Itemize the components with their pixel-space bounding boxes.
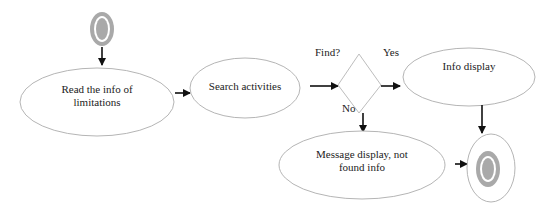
node-message-label-1: Message display, not [316, 148, 408, 160]
node-message-not-found: Message display, not found info [279, 131, 445, 199]
node-info-display: Info display [403, 48, 535, 106]
node-info-label: Info display [443, 60, 496, 72]
node-search-label: Search activities [209, 80, 281, 92]
decision-label: Find? [315, 46, 340, 58]
end-state-icon [467, 134, 515, 202]
node-read-limitations: Read the info of limitations [20, 68, 174, 136]
node-search-activities: Search activities [190, 58, 300, 118]
yes-label: Yes [383, 46, 399, 58]
no-label: No [342, 102, 356, 114]
node-read-label-1: Read the info of [61, 83, 133, 95]
node-read-label-2: limitations [73, 96, 120, 108]
start-state-icon [90, 12, 114, 46]
activity-diagram: Read the info of limitations Search acti… [0, 0, 550, 212]
node-message-label-2: found info [339, 161, 386, 173]
